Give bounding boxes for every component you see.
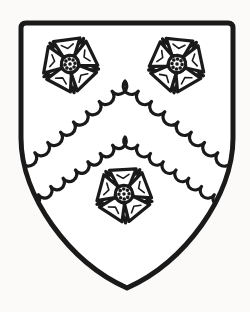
image-canvas: Heraldic shield chevron engrailed xyxy=(0,0,250,312)
heraldic-shield-drawing xyxy=(0,0,250,312)
